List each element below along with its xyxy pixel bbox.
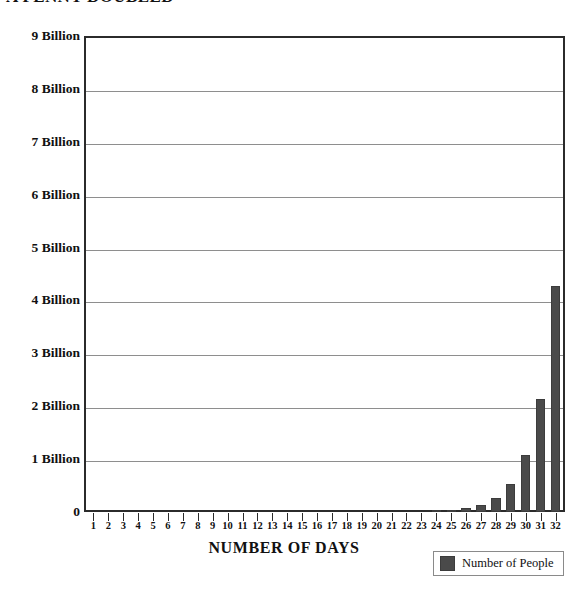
y-axis-tick-label: 9 Billion (4, 29, 80, 43)
y-axis-tick-label: 1 Billion (4, 452, 80, 466)
y-axis-tick-label: 4 Billion (4, 293, 80, 307)
y-axis-tick-label: 2 Billion (4, 399, 80, 413)
y-axis-tick-label: 5 Billion (4, 241, 80, 255)
bar (506, 484, 515, 512)
bar (447, 510, 456, 512)
legend-swatch-icon (440, 556, 455, 571)
bar (432, 510, 441, 512)
y-axis: 01 Billion2 Billion3 Billion4 Billion5 B… (0, 0, 80, 593)
y-axis-tick-label: 6 Billion (4, 188, 80, 202)
legend-item-label: Number of People (462, 556, 554, 571)
bar (536, 399, 545, 512)
x-axis-title: NUMBER OF DAYS (84, 539, 484, 557)
bar (476, 505, 485, 512)
y-axis-tick-label: 0 (4, 505, 80, 519)
bar (521, 455, 530, 512)
y-axis-tick-label: 7 Billion (4, 135, 80, 149)
bar (461, 508, 470, 512)
chart-legend: Number of People (433, 551, 564, 576)
bar-chart: A PENNY DOUBLED 01 Billion2 Billion3 Bil… (0, 0, 585, 593)
y-axis-tick-label: 8 Billion (4, 82, 80, 96)
x-axis-tick-label: 32 (546, 521, 566, 532)
bar (491, 498, 500, 512)
y-axis-tick-label: 3 Billion (4, 346, 80, 360)
bar-series (86, 38, 563, 512)
bar (551, 286, 560, 512)
